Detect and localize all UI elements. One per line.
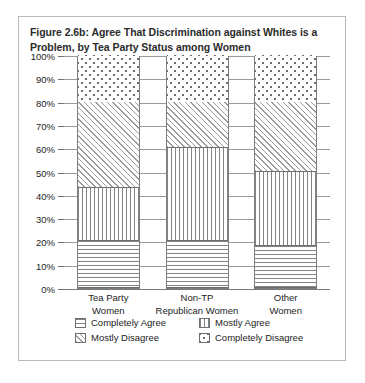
y-gridline [64,289,330,290]
y-axis-tick [58,79,64,80]
legend-item-completely-agree: Completely Agree [75,317,199,328]
y-axis-tick [58,242,64,243]
x-axis-tick-label-line: Tea Party [64,292,153,305]
y-axis-tick [58,173,64,174]
y-axis-tick-label: 100% [31,51,55,62]
x-axis-tick-label: Tea PartyWomen [64,292,153,317]
y-axis-tick [58,103,64,104]
x-axis-tick-label-line: Women [64,305,153,318]
bar-segment [167,148,228,241]
y-axis-tick-label: 0% [41,284,55,295]
bar-segment [255,246,316,288]
legend-swatch-dots-icon [199,333,210,343]
bar-segment [78,241,139,288]
x-axis-tick-label-line: Women [241,305,330,318]
chart-legend: Completely Agree Mostly Agree Mostly Dis… [75,317,325,347]
x-axis-tick-label-line: Other [241,292,330,305]
x-axis-tick-label: Non-TPRepublican Women [153,292,242,317]
bar-segment [167,241,228,288]
legend-label: Completely Agree [91,317,166,328]
y-axis-tick [58,126,64,127]
legend-swatch-diagonal-hatch-icon [75,333,86,343]
y-axis-tick-label: 90% [36,74,55,85]
bar-segment [78,188,139,242]
legend-item-completely-disagree: Completely Disagree [199,332,303,343]
y-axis-tick-label: 20% [36,237,55,248]
bar-segment [255,172,316,247]
y-axis-tick [58,149,64,150]
bar-segment [78,55,139,102]
y-axis-tick-label: 10% [36,260,55,271]
chart-plot-area: 0%10%20%30%40%50%60%70%80%90%100%Tea Par… [64,56,330,289]
legend-label: Mostly Agree [215,317,270,328]
legend-label: Completely Disagree [215,332,303,343]
y-axis-tick-label: 50% [36,167,55,178]
x-axis-tick-label-line: Republican Women [153,305,242,318]
y-axis-tick-label: 30% [36,214,55,225]
bar-segment [255,55,316,102]
y-axis-tick-label: 60% [36,144,55,155]
y-axis-tick-label: 70% [36,120,55,131]
stacked-bar [77,56,140,289]
legend-row: Mostly Disagree Completely Disagree [75,332,325,343]
x-axis-tick-label-line: Non-TP [153,292,242,305]
figure-title: Figure 2.6b: Agree That Discrimination a… [30,25,320,54]
y-axis-tick [58,196,64,197]
y-axis-tick [58,289,64,290]
legend-item-mostly-disagree: Mostly Disagree [75,332,199,343]
x-axis-tick-label: OtherWomen [241,292,330,317]
stacked-bar [254,56,317,289]
y-axis-tick [58,266,64,267]
legend-item-mostly-agree: Mostly Agree [199,317,270,328]
y-axis-tick-label: 40% [36,190,55,201]
y-axis-tick [58,219,64,220]
figure-panel: Figure 2.6b: Agree That Discrimination a… [18,16,346,361]
y-axis-tick-label: 80% [36,97,55,108]
y-axis-tick [58,56,64,57]
bar-segment [167,102,228,149]
bar-segment [78,102,139,188]
stacked-bar [166,56,229,289]
legend-row: Completely Agree Mostly Agree [75,317,325,328]
legend-label: Mostly Disagree [91,332,159,343]
bar-segment [255,102,316,172]
legend-swatch-vertical-lines-icon [199,318,210,328]
legend-swatch-horizontal-lines-icon [75,318,86,328]
bar-segment [167,55,228,102]
